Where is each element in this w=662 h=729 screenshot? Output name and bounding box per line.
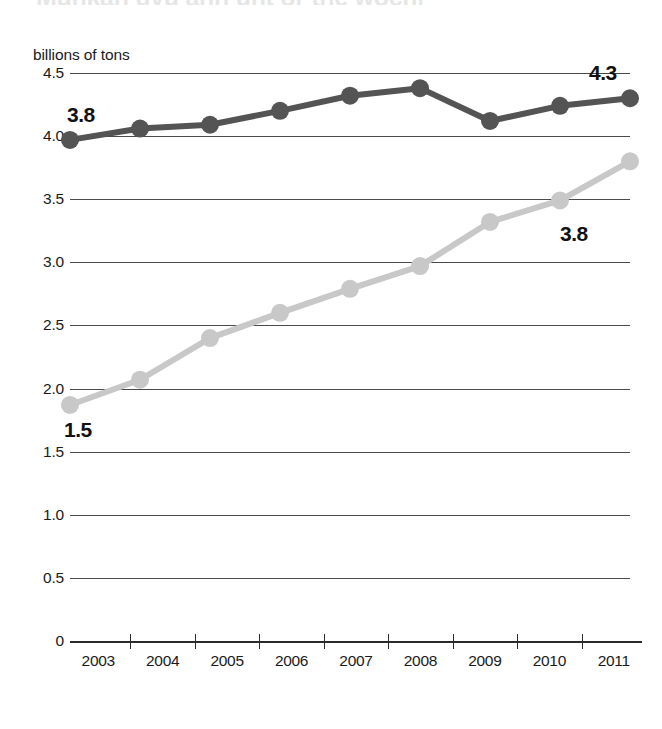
data-point-marker[interactable] xyxy=(271,102,289,120)
data-point-marker[interactable] xyxy=(621,152,639,170)
chart-page: Munkan uvu ann unt or the wochi billions… xyxy=(0,0,662,729)
series-light-series xyxy=(61,152,639,414)
data-point-marker[interactable] xyxy=(411,79,429,97)
callout-dark-end: 4.3 xyxy=(589,61,617,85)
data-point-marker[interactable] xyxy=(481,213,499,231)
data-point-marker[interactable] xyxy=(61,396,79,414)
data-point-marker[interactable] xyxy=(201,116,219,134)
data-point-marker[interactable] xyxy=(551,191,569,209)
data-point-marker[interactable] xyxy=(131,120,149,138)
callout-dark-start: 3.8 xyxy=(67,103,95,127)
series-dark-series xyxy=(61,79,639,149)
data-point-marker[interactable] xyxy=(621,89,639,107)
callout-light-start: 1.5 xyxy=(64,418,92,442)
data-point-marker[interactable] xyxy=(61,131,79,149)
data-point-marker[interactable] xyxy=(481,112,499,130)
callout-light-end: 3.8 xyxy=(560,222,588,246)
data-point-marker[interactable] xyxy=(201,329,219,347)
data-point-marker[interactable] xyxy=(341,280,359,298)
data-point-marker[interactable] xyxy=(271,304,289,322)
data-point-marker[interactable] xyxy=(411,257,429,275)
series-layer xyxy=(0,0,662,729)
data-point-marker[interactable] xyxy=(131,371,149,389)
data-point-marker[interactable] xyxy=(551,97,569,115)
data-point-marker[interactable] xyxy=(341,87,359,105)
